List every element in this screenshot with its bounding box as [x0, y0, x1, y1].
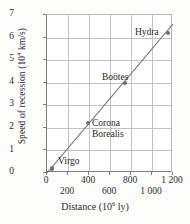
- x-tick-label-1200: 1 200: [152, 175, 190, 185]
- y-tick-label-2: 2: [0, 122, 14, 132]
- hubble-trend-line: [47, 15, 173, 173]
- data-point-virgo[interactable]: [50, 166, 54, 170]
- x-tick-label-0: 0: [26, 175, 66, 185]
- plot-area: Virgo Corona Borealis Boötes Hydra: [46, 14, 172, 172]
- y-tick-label-3: 3: [0, 99, 14, 109]
- data-label-virgo: Virgo: [58, 156, 79, 167]
- y-tick-label-6: 6: [0, 32, 14, 42]
- y-axis-title-unit: km/s): [17, 28, 27, 53]
- hubble-diagram-figure: Speed of recession (104 km/s) 7 6 5 4 3 …: [0, 0, 190, 224]
- y-tick-label-5: 5: [0, 54, 14, 64]
- y-tick-label-1: 1: [0, 145, 14, 155]
- y-tick-label-0: 0: [0, 167, 14, 177]
- y-tick-label-7: 7: [0, 9, 14, 19]
- data-label-bootes: Boötes: [102, 72, 128, 83]
- x-tick-label-800: 800: [110, 175, 150, 185]
- x-tick-label-600: 600: [89, 186, 129, 196]
- x-tick-label-200: 200: [47, 186, 87, 196]
- y-tick-label-4: 4: [0, 77, 14, 87]
- data-label-borealis: Borealis: [92, 129, 124, 140]
- x-axis-title-text: Distance (10: [61, 201, 112, 212]
- y-axis-title: Speed of recession (104 km/s): [15, 1, 27, 171]
- data-label-hydra: Hydra: [135, 27, 159, 38]
- y-axis-title-exponent: 4: [15, 52, 22, 55]
- y-axis-title-text: Speed of recession (10: [17, 56, 27, 144]
- data-label-corona: Corona: [92, 118, 120, 129]
- x-tick-label-400: 400: [68, 175, 108, 185]
- x-axis-title-unit: ly): [115, 201, 129, 212]
- x-axis-title: Distance (106 ly): [0, 200, 190, 212]
- data-point-hydra[interactable]: [166, 31, 170, 35]
- x-tick-label-1000: 1 000: [131, 186, 171, 196]
